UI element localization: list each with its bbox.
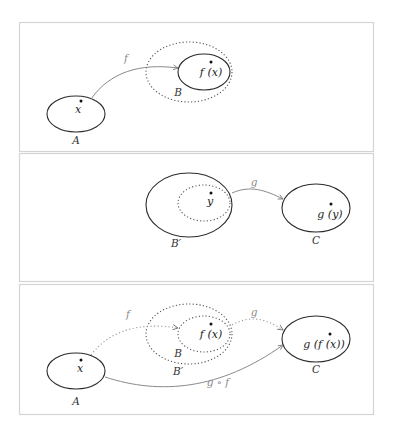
point-gy — [330, 203, 333, 206]
label-arrow-g: g — [251, 176, 258, 188]
label-set-a: A — [71, 395, 80, 407]
label-arrow-gof: g ∘ f — [207, 376, 232, 388]
panel-1: x A f (x) B f — [20, 23, 374, 152]
label-set-c: C — [312, 363, 320, 375]
label-x: x — [77, 362, 84, 375]
label-set-a: A — [71, 134, 80, 146]
label-set-b: B — [173, 347, 182, 359]
label-arrow-g: g — [251, 306, 258, 318]
point-fx — [210, 323, 213, 326]
label-fx: f (x) — [199, 66, 222, 79]
panel-2: y B′ g (y) C g — [20, 154, 374, 282]
label-y: y — [206, 195, 214, 208]
function-composition-diagram: x A f (x) B f y B′ g (y) C g x A — [0, 0, 395, 432]
label-set-b-prime: B′ — [172, 365, 184, 377]
label-gy: g (y) — [317, 208, 342, 221]
point-fx — [210, 61, 213, 64]
point-gfx — [329, 333, 332, 336]
label-x: x — [75, 103, 82, 116]
label-fx: f (x) — [199, 328, 222, 341]
label-gfx: g (f (x)) — [303, 338, 344, 351]
label-set-b-prime: B′ — [170, 237, 182, 249]
label-set-c: C — [312, 234, 320, 246]
label-set-b: B — [173, 86, 182, 98]
panel-3: x A f (x) B B′ g (f (x)) C f g g ∘ f — [20, 285, 374, 415]
